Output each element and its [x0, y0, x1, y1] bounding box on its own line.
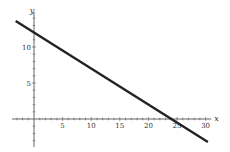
y-tick-label: 10	[22, 44, 31, 52]
data-line	[16, 21, 208, 142]
line-chart: 51015202530510 x y	[0, 0, 230, 152]
series	[16, 21, 208, 142]
tick-labels: 51015202530510	[22, 44, 210, 131]
x-tick-label: 15	[115, 122, 124, 130]
x-tick-label: 5	[60, 122, 64, 130]
x-tick-label: 20	[144, 122, 153, 130]
x-tick-label: 10	[87, 122, 96, 130]
y-tick-label: 5	[27, 80, 31, 88]
y-axis-label: y	[29, 6, 35, 15]
x-axis-label: x	[214, 114, 219, 123]
x-tick-label: 30	[201, 122, 210, 130]
